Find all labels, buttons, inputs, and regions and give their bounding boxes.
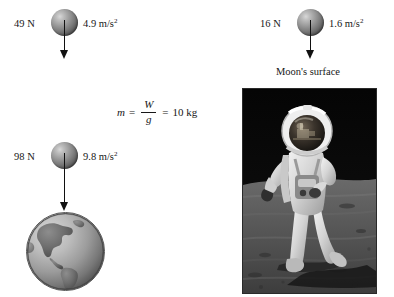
earth-force-label: 98 N xyxy=(14,152,35,163)
astronaut-moon-photo xyxy=(242,88,377,294)
mass-equation: m = W g = 10 kg xyxy=(117,99,197,125)
earth-globe-icon xyxy=(26,212,105,291)
equation-equals-1: = xyxy=(129,106,135,118)
half-gravity-acceleration-label: 4.9 m/s2 xyxy=(83,19,117,30)
half-gravity-force-label: 49 N xyxy=(14,19,35,30)
moon-surface-caption: Moon's surface xyxy=(276,66,340,77)
down-arrow-icon xyxy=(51,20,78,62)
equation-result: 10 kg xyxy=(173,106,198,118)
equation-fraction: W g xyxy=(141,99,156,125)
equation-denominator: g xyxy=(143,114,155,126)
earth-acceleration-label: 9.8 m/s2 xyxy=(83,152,117,163)
equation-variable: m xyxy=(117,106,125,118)
physics-figure: 49 N 4.9 m/s2 16 N 1.6 m/s2 Moon's surfa… xyxy=(0,0,394,297)
down-arrow-icon xyxy=(297,20,324,62)
down-arrow-icon xyxy=(51,153,78,215)
equation-equals-2: = xyxy=(162,106,168,118)
moon-force-label: 16 N xyxy=(260,19,281,30)
moon-acceleration-label: 1.6 m/s2 xyxy=(329,19,363,30)
equation-numerator: W xyxy=(141,99,156,111)
